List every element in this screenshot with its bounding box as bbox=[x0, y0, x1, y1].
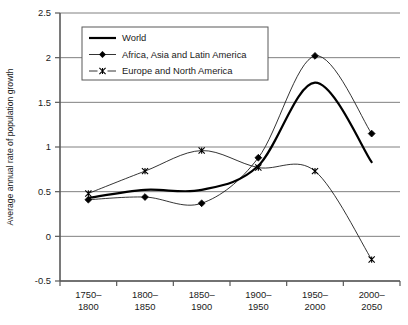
data-point-africa-asia-and-latin-america-2 bbox=[198, 200, 205, 207]
y-tick-label-2.5: 2.5 bbox=[38, 7, 51, 18]
y-tick-label-0: 0 bbox=[46, 231, 51, 242]
legend-label: Africa, Asia and Latin America bbox=[122, 49, 247, 60]
marker-diamond bbox=[255, 154, 262, 161]
series-line-world bbox=[88, 83, 371, 198]
data-point-africa-asia-and-latin-america-1 bbox=[142, 194, 149, 201]
x-tick-label-3-line0: 1900– bbox=[245, 289, 272, 300]
marker-diamond bbox=[198, 200, 205, 207]
legend-label: Europe and North America bbox=[122, 65, 233, 76]
series-line-europe-and-north-america bbox=[88, 151, 371, 260]
data-point-europe-and-north-america-4 bbox=[312, 168, 318, 174]
marker-x bbox=[369, 256, 375, 262]
y-tick-label-0.5: 0.5 bbox=[38, 186, 51, 197]
x-tick-label-4-line0: 1950– bbox=[302, 289, 329, 300]
x-tick-label-3-line1: 1950 bbox=[248, 301, 269, 312]
y-tick-label-1.5: 1.5 bbox=[38, 97, 51, 108]
x-tick-label-4-line1: 2000 bbox=[305, 301, 326, 312]
x-tick-label-2-line0: 1850– bbox=[189, 289, 216, 300]
marker-x bbox=[85, 190, 91, 196]
x-tick-label-0-line0: 1750– bbox=[75, 289, 102, 300]
marker-diamond bbox=[142, 194, 149, 201]
y-tick-label--0.5: -0.5 bbox=[35, 275, 51, 286]
marker-diamond bbox=[312, 52, 319, 59]
x-tick-label-1-line0: 1800– bbox=[132, 289, 159, 300]
marker-diamond bbox=[368, 130, 375, 137]
data-point-africa-asia-and-latin-america-4 bbox=[312, 52, 319, 59]
data-point-europe-and-north-america-0 bbox=[85, 190, 91, 196]
y-tick-label-1: 1 bbox=[46, 141, 51, 152]
data-point-africa-asia-and-latin-america-3 bbox=[255, 154, 262, 161]
y-axis-title: Average annual rate of population growth bbox=[5, 68, 15, 225]
data-point-africa-asia-and-latin-america-5 bbox=[368, 130, 375, 137]
marker-x bbox=[142, 168, 148, 174]
marker-x bbox=[312, 168, 318, 174]
x-tick-label-2-line1: 1900 bbox=[191, 301, 212, 312]
x-tick-label-5-line1: 2050 bbox=[361, 301, 382, 312]
data-point-europe-and-north-america-5 bbox=[369, 256, 375, 262]
chart-canvas: -0.500.511.522.51750–18001800–18501850–1… bbox=[0, 0, 408, 325]
legend-label: World bbox=[122, 32, 146, 43]
x-tick-label-0-line1: 1800 bbox=[78, 301, 99, 312]
x-tick-label-5-line0: 2000– bbox=[359, 289, 386, 300]
data-point-europe-and-north-america-1 bbox=[142, 168, 148, 174]
population-growth-chart: -0.500.511.522.51750–18001800–18501850–1… bbox=[0, 0, 408, 325]
y-tick-label-2: 2 bbox=[46, 52, 51, 63]
x-tick-label-1-line1: 1850 bbox=[135, 301, 156, 312]
